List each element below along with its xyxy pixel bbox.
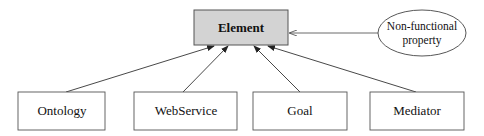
non-functional-property-node[interactable]: Non-functional property	[378, 10, 466, 56]
ontology-node[interactable]: Ontology	[18, 92, 105, 130]
element-label: Element	[218, 20, 265, 35]
webservice-label: WebService	[155, 103, 218, 118]
ontology-label: Ontology	[37, 103, 87, 118]
property-label-line1: Non-functional	[387, 20, 457, 32]
edge-ontology-element	[66, 46, 214, 92]
element-node[interactable]: Element	[194, 10, 288, 45]
edge-webservice-element	[183, 46, 228, 92]
mediator-node[interactable]: Mediator	[370, 92, 464, 130]
goal-label: Goal	[287, 103, 313, 118]
edge-goal-element	[254, 46, 300, 92]
diagram-canvas: Element Non-functional property Ontology…	[0, 0, 484, 136]
property-label-line2: property	[403, 34, 442, 47]
goal-node[interactable]: Goal	[253, 92, 347, 130]
property-ellipse	[378, 10, 466, 56]
mediator-label: Mediator	[393, 103, 441, 118]
edge-mediator-element	[268, 46, 416, 92]
webservice-node[interactable]: WebService	[134, 92, 237, 130]
inheritance-edges	[66, 46, 416, 92]
